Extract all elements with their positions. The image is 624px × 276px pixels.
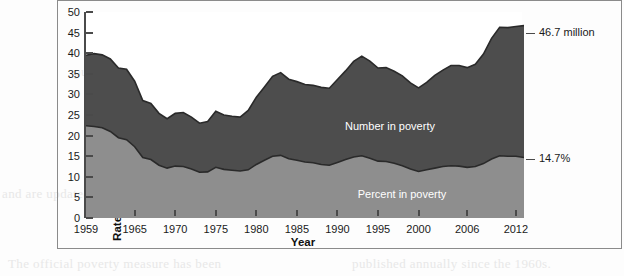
area-chart-svg [86,12,524,218]
x-axis-tick-label: 2012 [504,223,528,235]
callout-percent-in-poverty: 14.7% [526,152,570,164]
series-label-number-in-poverty: Number in poverty [345,120,435,132]
y-axis-tick [86,11,93,13]
y-axis-tick-label: 45 [68,27,80,39]
callout-number-value: 46.7 million [539,26,595,38]
x-axis-tick [515,210,517,216]
ghost-line: published annually since the 1960s. [352,256,551,272]
ghost-line: The official poverty measure has been [8,256,221,272]
x-axis-tick-label: 1995 [366,223,390,235]
x-axis-tick [174,210,176,216]
y-axis-tick-label: 35 [68,68,80,80]
x-axis-tick [418,210,420,216]
callout-percent-value: 14.7% [539,152,570,164]
x-axis-tick [336,210,338,216]
x-axis-tick-label: 1965 [122,223,146,235]
y-axis-tick-label: 40 [68,47,80,59]
x-axis-tick-label: 1985 [285,223,309,235]
y-axis-tick [86,32,93,34]
x-axis-tick-label: 1980 [244,223,268,235]
x-axis-tick [377,210,379,216]
y-axis-tick [86,155,93,157]
y-axis-tick [86,217,93,219]
y-axis-tick-label: 25 [68,109,80,121]
y-axis-tick [86,52,93,54]
x-axis-tick-label: 1990 [325,223,349,235]
callout-number-in-poverty: 46.7 million [526,26,595,38]
y-axis-tick [86,73,93,75]
x-axis-tick-label: 1970 [163,223,187,235]
series-label-percent-in-poverty: Percent in poverty [358,188,447,200]
y-axis-tick-label: 20 [68,130,80,142]
y-axis-tick [86,114,93,116]
y-axis-tick-label: 5 [74,191,80,203]
y-axis-tick [86,176,93,178]
y-axis-tick-label: 30 [68,88,80,100]
x-axis-tick-label: 1975 [204,223,228,235]
callout-leader-line [526,33,535,34]
y-axis-tick-label: 15 [68,150,80,162]
x-axis-tick-label: 2006 [455,223,479,235]
y-axis-tick [86,93,93,95]
y-axis-tick-label: 50 [68,6,80,18]
x-axis-tick [134,210,136,216]
y-axis-tick [86,135,93,137]
plot-area: 0510152025303540455019591965197019751980… [84,12,522,218]
x-axis-tick [466,210,468,216]
x-axis-tick [255,210,257,216]
x-axis-tick [215,210,217,216]
x-axis-tick-label: 1959 [74,223,98,235]
x-axis-tick [296,210,298,216]
x-axis-title: Year [291,236,315,248]
poverty-chart-screenshot: The concept of poverty in the United Sta… [0,0,624,276]
y-axis-tick-label: 10 [68,171,80,183]
x-axis-tick-label: 2000 [406,223,430,235]
callout-leader-line [526,159,535,160]
y-axis-tick [86,196,93,198]
